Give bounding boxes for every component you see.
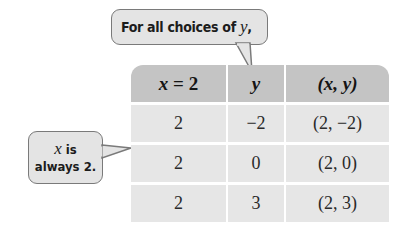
cell-y: −2 [228,105,284,142]
table-row: 2 3 (2, 3) [131,185,389,222]
header-y: y [228,65,284,102]
cell-y: 3 [228,185,284,222]
cell-pair: (2, 0) [286,145,389,182]
header-x-equals-2: x = 2 [131,65,226,102]
cell-x: 2 [131,185,226,222]
left-callout-pointer-icon [102,145,131,158]
cell-x: 2 [131,105,226,142]
table-row: 2 0 (2, 0) [131,145,389,182]
cell-y: 0 [228,145,284,182]
cell-x: 2 [131,145,226,182]
table-row: 2 −2 (2, −2) [131,105,389,142]
table-header-row: x = 2 y (x, y) [131,65,389,102]
xy-table: x = 2 y (x, y) 2 −2 (2, −2) 2 0 (2, 0) 2… [129,62,391,225]
header-xy-pair: (x, y) [286,65,389,102]
cell-pair: (2, −2) [286,105,389,142]
cell-pair: (2, 3) [286,185,389,222]
